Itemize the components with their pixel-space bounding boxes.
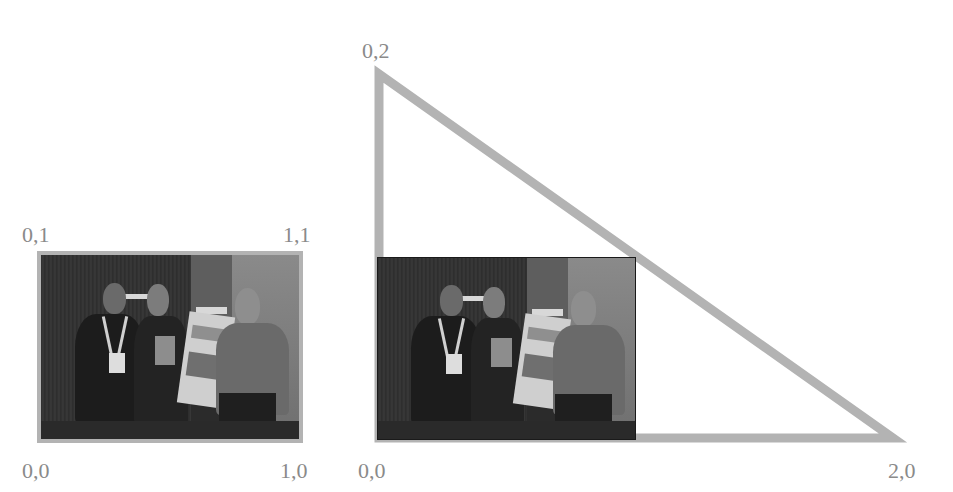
- texture-photo-right: [377, 257, 636, 440]
